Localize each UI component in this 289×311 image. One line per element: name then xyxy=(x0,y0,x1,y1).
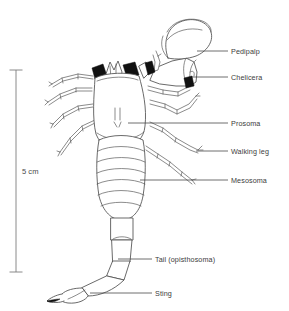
tail-group xyxy=(47,218,133,303)
scale-bar-group: 5 cm xyxy=(10,70,46,272)
walking-leg-right-1 xyxy=(148,86,190,92)
walking-leg-left-1 xyxy=(52,74,93,84)
walking-leg-right-4-detail xyxy=(146,150,196,184)
diagram-canvas: 5 cm xyxy=(0,0,289,311)
right-walking-legs-group xyxy=(146,82,203,184)
scale-bar-label: 5 cm xyxy=(22,167,38,176)
walking-leg-right-3-detail xyxy=(150,126,203,153)
label-tail: Tail (opisthosoma) xyxy=(155,255,215,264)
scorpion-anatomy-figure: 5 cm xyxy=(0,0,289,311)
walking-leg-right-3 xyxy=(150,122,198,150)
label-chelicera: Chelicera xyxy=(231,73,262,82)
label-prosoma: Prosoma xyxy=(231,119,260,128)
pedipalp-base-dark-band xyxy=(184,76,194,88)
mesosoma-group xyxy=(97,136,146,221)
walking-leg-right-2 xyxy=(150,96,196,110)
pedipalp-group xyxy=(150,19,212,88)
label-sting: Sting xyxy=(155,289,172,298)
label-pedipalp: Pedipalp xyxy=(231,47,260,56)
walking-leg-left-4-detail xyxy=(57,123,95,156)
walking-leg-right-4 xyxy=(146,146,192,180)
walking-leg-left-3 xyxy=(53,104,93,124)
label-mesosoma: Mesosoma xyxy=(231,176,267,185)
left-walking-legs-group xyxy=(45,74,95,156)
walking-leg-left-4 xyxy=(60,120,95,152)
label-walking-leg: Walking leg xyxy=(231,147,269,156)
mesosoma-body xyxy=(97,136,146,221)
walking-leg-left-2 xyxy=(48,88,92,102)
